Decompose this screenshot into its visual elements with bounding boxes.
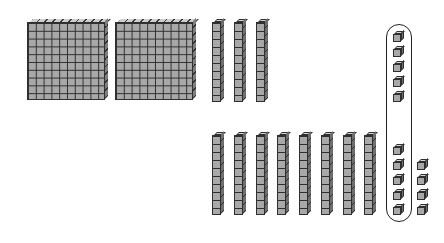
tens-rod-block [299,135,308,215]
tens-rod-block [364,135,373,215]
tens-rod-block [234,135,243,215]
unit-cube-block [393,147,401,155]
tens-rod-block [321,135,330,215]
tens-rod-block [212,22,221,102]
unit-cube-block [417,177,425,185]
unit-cube-block [417,207,425,215]
unit-cube-block [393,49,401,57]
unit-cube-block [393,94,401,102]
tens-rod-block [343,135,352,215]
hundreds-flat-block [115,22,193,100]
unit-cube-block [417,192,425,200]
tens-rod-block [256,22,265,102]
tens-rod-block [212,135,221,215]
unit-cube-block [393,34,401,42]
unit-cube-block [393,192,401,200]
hundreds-flat-block [27,22,105,100]
unit-cube-block [393,162,401,170]
unit-cube-block [417,162,425,170]
tens-rod-block [234,22,243,102]
unit-cube-block [393,79,401,87]
tens-rod-block [256,135,265,215]
unit-cube-block [393,207,401,215]
unit-cube-block [393,177,401,185]
unit-cube-block [393,64,401,72]
tens-rod-block [277,135,286,215]
